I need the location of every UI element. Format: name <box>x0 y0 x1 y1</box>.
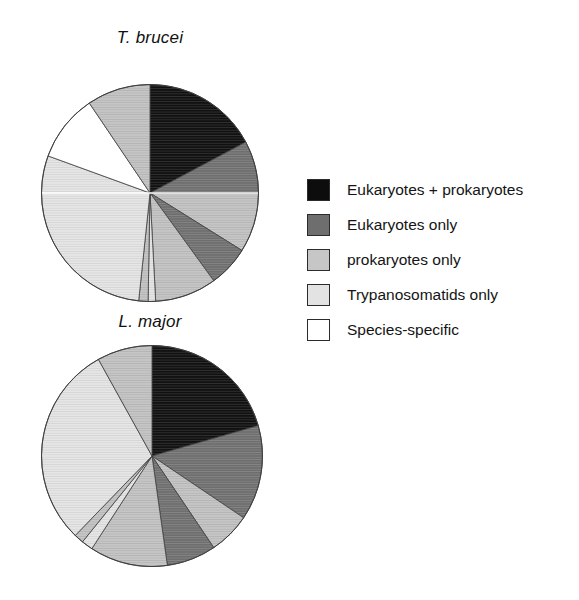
legend-swatch-trypanosomatids-only <box>307 284 330 306</box>
legend-row: prokaryotes only <box>307 242 567 277</box>
legend-label: Species-specific <box>347 322 459 338</box>
legend-row: Eukaryotes only <box>307 207 567 242</box>
pie-title-l-major: L. major <box>0 312 300 332</box>
pie-chart-l-major: Eukaryotes + prokaryotesEukaryotes onlyp… <box>40 344 264 568</box>
legend-swatch-species-specific <box>307 319 330 341</box>
pie-title-t-brucei: T. brucei <box>0 28 300 48</box>
legend-label: prokaryotes only <box>347 252 461 268</box>
legend-label: Eukaryotes + prokaryotes <box>347 182 523 198</box>
legend-swatch-prokaryotes-only <box>307 249 330 271</box>
legend-row: Eukaryotes + prokaryotes <box>307 172 567 207</box>
legend-swatch-eukaryotes-only <box>307 214 330 236</box>
legend-label: Eukaryotes only <box>347 217 457 233</box>
legend-label: Trypanosomatids only <box>347 287 498 303</box>
pie-chart-figure: T. brucei Eukaryotes + prokaryotesEukary… <box>0 0 579 600</box>
pie-chart-t-brucei-svg: Eukaryotes + prokaryotesEukaryotes onlyp… <box>40 83 260 303</box>
pie-chart-l-major-svg: Eukaryotes + prokaryotesEukaryotes onlyp… <box>40 344 264 568</box>
pie-chart-t-brucei: Eukaryotes + prokaryotesEukaryotes onlyp… <box>40 83 260 303</box>
legend-swatch-eukaryotes-prokaryotes <box>307 179 330 201</box>
legend-row: Trypanosomatids only <box>307 277 567 312</box>
legend-row: Species-specific <box>307 312 567 347</box>
chart-legend: Eukaryotes + prokaryotesEukaryotes onlyp… <box>307 172 567 347</box>
